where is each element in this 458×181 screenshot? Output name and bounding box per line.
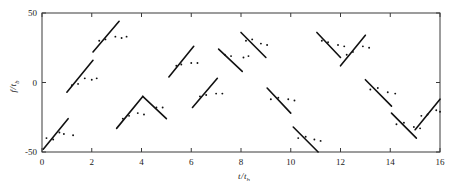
data-point [245,40,247,42]
data-point [84,77,86,79]
fit-line-segment [219,49,243,71]
data-point [260,43,262,45]
data-point [91,79,93,81]
data-point [46,137,48,139]
fit-line-segment [391,113,416,138]
fit-line-segment [192,78,217,107]
x-tick-label: 10 [286,157,296,167]
x-tick-label: 12 [336,157,345,167]
data-point [98,40,100,42]
data-point [377,87,379,89]
data-point [121,37,123,39]
x-tick-label: 16 [436,157,446,167]
data-point [403,122,405,124]
data-point [143,114,145,116]
y-tick-label: -50 [25,147,37,157]
data-point [294,100,296,102]
data-point [205,94,207,96]
scatter-plot: 0246810121416-50050t/tbf/tb [0,0,458,181]
data-point [243,57,245,59]
data-point [343,45,345,47]
data-point [352,51,354,53]
data-point [126,36,128,38]
data-point [162,107,164,109]
data-point [439,111,441,113]
data-point [327,41,329,43]
fit-line-segment [267,88,291,113]
data-point [128,115,130,117]
x-tick-label: 4 [139,157,144,167]
data-point [190,62,192,64]
data-point [114,36,116,38]
data-point [435,109,437,111]
data-point [427,114,429,116]
x-tick-label: 8 [239,157,244,167]
data-point [305,136,307,138]
fit-line-segment [117,96,143,128]
x-tick-label: 0 [40,157,45,167]
data-point [251,38,253,40]
data-point [394,93,396,95]
data-point [248,55,250,57]
data-point [58,132,60,134]
x-tick-label: 2 [90,157,95,167]
data-point [396,123,398,125]
data-point [362,45,364,47]
data-point [77,83,79,85]
data-point [277,97,279,99]
data-point [63,133,65,135]
x-axis-title: t/tb [238,171,251,181]
data-point [104,38,106,40]
data-point [419,127,421,129]
data-point [52,139,54,141]
x-tick-label: 6 [189,157,194,167]
data-point [215,93,217,95]
data-point [72,134,74,136]
data-point [320,140,322,142]
x-tick-label: 14 [386,157,396,167]
data-point [199,95,201,97]
data-point [297,137,299,139]
data-point [266,44,268,46]
figure-container: 0246810121416-50050t/tbf/tb [0,0,458,181]
y-tick-label: 0 [33,78,38,88]
data-point [197,62,199,64]
data-point [221,93,223,95]
y-axis-title: f/tb [8,80,20,93]
data-point [287,98,289,100]
data-point [321,40,323,42]
data-point [175,65,177,67]
data-point [122,118,124,120]
fit-line-segment [241,32,266,57]
fit-line-segment [169,46,194,77]
data-point [224,54,226,56]
fit-line-segment [341,35,366,66]
data-point [155,107,157,109]
data-point [346,54,348,56]
plot-frame [42,13,440,152]
data-point [420,115,422,117]
data-point [137,112,139,114]
y-tick-label: 50 [28,8,38,18]
data-point [368,47,370,49]
fit-line-segment [317,32,341,57]
data-point [180,63,182,65]
data-point [71,84,73,86]
data-point [413,126,415,128]
data-point [313,139,315,141]
data-point [387,91,389,93]
data-point [230,55,232,57]
data-point [369,89,371,91]
data-point [270,98,272,100]
data-point [96,77,98,79]
data-point [337,44,339,46]
fit-line-segment [67,60,93,92]
